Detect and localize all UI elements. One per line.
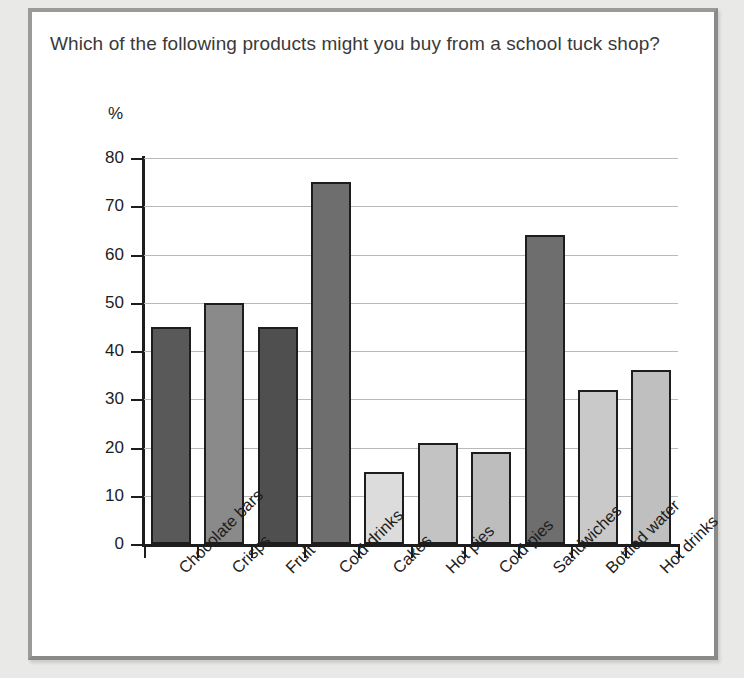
y-axis-label-40: 40 (78, 341, 124, 361)
x-tick-3 (304, 544, 306, 558)
gridline-80 (144, 158, 678, 159)
plot-area (144, 158, 678, 544)
y-axis-label-60: 60 (78, 245, 124, 265)
y-tick-60 (131, 255, 144, 257)
x-tick-0 (144, 544, 146, 558)
y-tick-40 (131, 351, 144, 353)
x-tick-1 (197, 544, 199, 558)
y-tick-10 (131, 496, 144, 498)
y-tick-50 (131, 303, 144, 305)
y-tick-30 (131, 399, 144, 401)
x-tick-4 (358, 544, 360, 558)
y-axis-label-30: 30 (78, 389, 124, 409)
y-axis-label-10: 10 (78, 486, 124, 506)
bar-cold-drinks (311, 182, 351, 544)
y-axis-label-70: 70 (78, 196, 124, 216)
bar-hot-pies (418, 443, 458, 544)
y-tick-20 (131, 448, 144, 450)
x-tick-7 (518, 544, 520, 558)
bar-fruit (258, 327, 298, 544)
y-axis-tick-labels: 01020304050607080 (72, 98, 124, 658)
y-axis-label-0: 0 (78, 534, 124, 554)
bar-chocolate-bars (151, 327, 191, 544)
gridline-70 (144, 206, 678, 207)
x-tick-5 (411, 544, 413, 558)
worksheet-card: Which of the following products might yo… (28, 8, 718, 660)
x-tick-end (678, 544, 680, 558)
bar-sandwiches (525, 235, 565, 544)
y-axis-label-50: 50 (78, 293, 124, 313)
question-text: Which of the following products might yo… (50, 30, 690, 57)
y-axis-label-80: 80 (78, 148, 124, 168)
y-tick-70 (131, 206, 144, 208)
bar-chart: % 01020304050607080 Chocolate barsCrisps… (32, 98, 714, 658)
gridline-60 (144, 255, 678, 256)
x-tick-9 (625, 544, 627, 558)
y-tick-80 (131, 158, 144, 160)
y-axis-label-20: 20 (78, 438, 124, 458)
y-tick-0 (131, 544, 144, 546)
x-tick-6 (464, 544, 466, 558)
x-tick-2 (251, 544, 253, 558)
x-tick-8 (571, 544, 573, 558)
